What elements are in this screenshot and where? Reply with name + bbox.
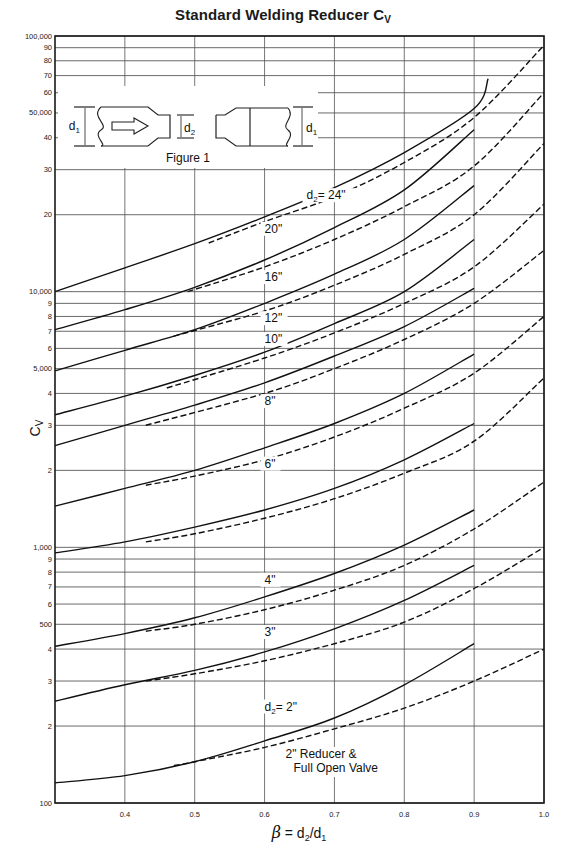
curve-label: 10" [265,332,283,346]
y-tick-label: 90 [44,43,52,52]
y-tick-label: 10,000 [29,287,52,296]
x-tick-label: 0.7 [329,810,339,819]
y-tick-label: 9 [48,555,52,564]
y-tick-label: 7 [48,327,52,336]
y-tick-label: 20 [44,210,52,219]
y-tick-label: 8 [48,312,52,321]
y-tick-label: 30 [44,165,52,174]
y-tick-label: 6 [48,600,52,609]
y-tick-label: 2 [48,722,52,731]
y-tick-label: 50,000 [29,108,52,117]
y-tick-label: 9 [48,299,52,308]
y-tick-label: 60 [44,88,52,97]
x-tick-label: 0.9 [469,810,479,819]
dashed-curve [146,250,544,425]
y-tick-label: 100 [39,799,52,808]
y-tick-label: 1,000 [33,543,52,552]
x-tick-label: 0.6 [259,810,269,819]
curve-label: 12" [265,311,283,325]
curve-label: 3" [265,625,276,639]
y-tick-label: 500 [39,620,52,629]
y-tick-label: 6 [48,344,52,353]
figure-caption: Figure 1 [166,151,210,165]
x-axis-label: β = d2/d1 [271,823,327,843]
curve-label: 8" [265,394,276,408]
y-tick-label: 80 [44,56,52,65]
x-tick-label: 0.8 [399,810,409,819]
chart-plot: 10023450067891,0002345,000678910,0002030… [0,0,566,854]
y-axis-label: CV [27,419,45,436]
dashed-curve [174,143,544,336]
y-tick-label: 8 [48,568,52,577]
y-tick-label: 40 [44,133,52,142]
curve-label: 6" [265,457,276,471]
dashed-curve [146,316,544,485]
y-tick-label: 2 [48,466,52,475]
figure-1-inset: d1 d2 d1 Figure 1 [58,86,318,168]
curve-labels: d2= 24"20"16"12"10"8"6"4"3"d2= 2"2" Redu… [261,188,392,777]
curve-label: d2= 2" [265,700,297,716]
x-tick-label: 0.4 [120,810,130,819]
curve-label: 20" [265,222,283,236]
y-tick-label: 7 [48,582,52,591]
y-tick-label: 3 [48,677,52,686]
dashed-curve [146,482,544,631]
curve-label: d2= 24" [306,188,345,204]
y-tick-label: 3 [48,421,52,430]
y-tick-label: 4 [48,645,52,654]
curve-label: 16" [265,270,283,284]
x-tick-label: 1.0 [539,810,549,819]
y-tick-label: 4 [48,389,52,398]
y-tick-label: 70 [44,71,52,80]
x-tick-label: 0.5 [189,810,199,819]
y-tick-label: 5,000 [33,364,52,373]
y-tick-label: 100,000 [25,32,52,41]
curve-label: 4" [265,573,276,587]
